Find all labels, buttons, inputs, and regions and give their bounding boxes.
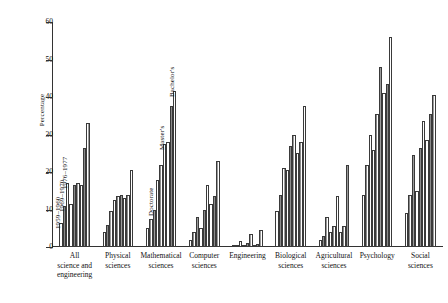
x-axis-label-line: sciences bbox=[177, 261, 232, 271]
y-tick-mark bbox=[46, 172, 53, 173]
bar bbox=[130, 170, 133, 247]
bar-group bbox=[232, 22, 263, 247]
y-tick: 40 bbox=[20, 97, 53, 98]
chart-annotation: Bachelor's bbox=[168, 67, 176, 97]
bar bbox=[432, 95, 435, 247]
y-tick-mark bbox=[46, 97, 53, 98]
y-tick: 20 bbox=[20, 172, 53, 173]
bar bbox=[259, 230, 262, 247]
y-tick-mark bbox=[46, 22, 53, 23]
bar bbox=[346, 165, 349, 248]
y-tick: 10 bbox=[20, 210, 53, 211]
bar-group bbox=[59, 22, 90, 247]
chart-annotation: Master's bbox=[158, 126, 166, 150]
y-tick: 60 bbox=[20, 22, 53, 23]
x-axis-label-line: engineering bbox=[47, 270, 102, 280]
y-tick: 50 bbox=[20, 60, 53, 61]
bar-group bbox=[405, 22, 436, 247]
y-axis-label: Percentage bbox=[38, 70, 46, 150]
x-axis-label: Socialsciences bbox=[393, 251, 448, 270]
bar bbox=[389, 37, 392, 247]
y-tick-mark bbox=[46, 247, 53, 248]
y-tick-mark bbox=[46, 60, 53, 61]
bar-group bbox=[103, 22, 134, 247]
bar-chart-figure: Percentage 0102030405060 Allscience ande… bbox=[0, 0, 448, 303]
y-tick-mark bbox=[46, 210, 53, 211]
chart-annotation: 1976–1977 bbox=[61, 157, 69, 189]
x-axis-label-line: Social bbox=[393, 251, 448, 261]
bar-group bbox=[275, 22, 306, 247]
bar bbox=[173, 91, 176, 247]
bar-group bbox=[319, 22, 350, 247]
chart-annotation: Doctorate bbox=[147, 187, 155, 216]
bar bbox=[303, 106, 306, 247]
bar bbox=[86, 123, 89, 247]
bar-group bbox=[189, 22, 220, 247]
y-tick-mark bbox=[46, 135, 53, 136]
bar bbox=[216, 161, 219, 247]
x-axis-label-line: sciences bbox=[393, 261, 448, 271]
y-tick: 0 bbox=[20, 247, 53, 248]
plot-area bbox=[53, 22, 442, 247]
x-axis-label-line: sciences bbox=[306, 261, 361, 271]
y-tick: 30 bbox=[20, 135, 53, 136]
bar-group bbox=[362, 22, 393, 247]
